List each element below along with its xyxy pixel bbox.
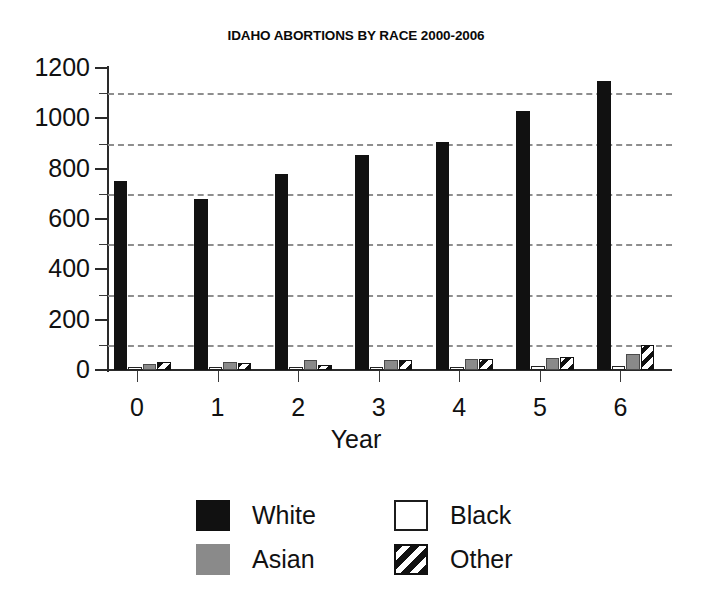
legend-swatch-white-icon: [196, 500, 230, 531]
bar-black-0: [128, 367, 142, 370]
bar-asian-6: [626, 354, 640, 370]
y-axis-tick: [95, 117, 108, 119]
y-axis-minor-tick: [99, 295, 108, 296]
legend-label: Other: [450, 547, 513, 572]
bar-asian-5: [546, 358, 560, 370]
bar-black-6: [612, 366, 626, 370]
bar-other-0: [157, 362, 171, 370]
bar-black-3: [370, 367, 384, 370]
bar-black-4: [450, 367, 464, 370]
y-axis-minor-tick: [99, 93, 108, 94]
bar-white-1: [194, 199, 208, 370]
y-axis-tick-label: 1200: [0, 55, 90, 80]
x-axis-tick: [218, 371, 219, 382]
y-axis-tick-label: 0: [0, 357, 90, 382]
bar-asian-2: [304, 360, 318, 370]
legend-swatch-black-icon: [394, 500, 428, 531]
legend-swatch-asian-icon: [196, 544, 230, 575]
y-axis-minor-tick: [99, 144, 108, 145]
y-axis-tick-label: 800: [0, 156, 90, 181]
y-axis-tick-label: 1000: [0, 105, 90, 130]
x-axis-tick-label: 4: [439, 395, 479, 420]
bar-asian-0: [143, 364, 157, 370]
bar-asian-1: [223, 362, 237, 370]
bar-white-4: [436, 142, 450, 370]
bar-other-4: [479, 359, 493, 370]
y-axis-tick: [95, 319, 108, 321]
bar-white-6: [597, 81, 611, 370]
legend-label: Black: [450, 503, 511, 528]
x-axis-tick: [459, 371, 460, 382]
y-axis-minor-tick: [99, 194, 108, 195]
legend-entry-black[interactable]: Black: [394, 495, 544, 535]
bar-other-6: [641, 345, 655, 370]
x-axis-tick-label: 5: [520, 395, 560, 420]
y-axis-minor-tick: [99, 345, 108, 346]
x-axis-tick-label: 1: [198, 395, 238, 420]
bar-white-0: [114, 181, 128, 370]
bar-asian-3: [384, 360, 398, 370]
x-axis-tick-label: 2: [278, 395, 318, 420]
legend-entry-other[interactable]: Other: [394, 539, 544, 579]
x-axis-tick-label: 3: [359, 395, 399, 420]
chart-figure: IDAHO ABORTIONS BY RACE 2000-2006 020040…: [0, 0, 712, 601]
legend-entry-white[interactable]: White: [196, 495, 346, 535]
bar-other-1: [238, 363, 252, 370]
y-axis-tick: [95, 218, 108, 220]
bar-asian-4: [465, 359, 479, 370]
bar-white-3: [355, 155, 369, 370]
bar-white-5: [516, 111, 530, 370]
y-axis-tick-label: 600: [0, 206, 90, 231]
y-axis-tick: [95, 369, 108, 371]
x-axis-tick: [379, 371, 380, 382]
bar-other-5: [560, 357, 574, 370]
legend-swatch-other-icon: [394, 544, 428, 575]
bar-other-3: [399, 360, 413, 370]
bar-black-5: [531, 366, 545, 370]
y-axis-tick-label: 400: [0, 256, 90, 281]
chart-title: IDAHO ABORTIONS BY RACE 2000-2006: [0, 28, 712, 43]
bar-other-2: [318, 365, 332, 370]
legend-entry-asian[interactable]: Asian: [196, 539, 346, 579]
y-axis-tick: [95, 268, 108, 270]
x-axis-tick: [298, 371, 299, 382]
legend-label: Asian: [252, 547, 315, 572]
x-axis-tick: [137, 371, 138, 382]
bar-black-2: [289, 367, 303, 370]
y-axis-tick: [95, 168, 108, 170]
plot-area: [108, 68, 672, 370]
bar-black-1: [209, 367, 223, 370]
x-axis-tick-label: 6: [600, 395, 640, 420]
y-axis-minor-tick: [99, 244, 108, 245]
x-axis-tick: [540, 371, 541, 382]
y-axis-tick-label: 200: [0, 307, 90, 332]
chart-legend: WhiteBlackAsianOther: [196, 495, 576, 579]
x-axis-tick: [620, 371, 621, 382]
x-axis-tick-label: 0: [117, 395, 157, 420]
bar-white-2: [275, 174, 289, 370]
y-axis-tick: [95, 67, 108, 69]
legend-label: White: [252, 503, 316, 528]
x-axis-title: Year: [0, 425, 712, 454]
